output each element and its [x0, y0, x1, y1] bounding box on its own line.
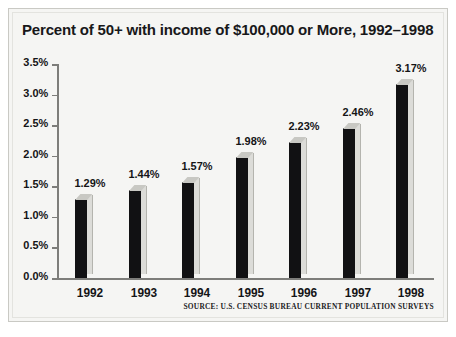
y-axis-tick-label: 0.0%	[23, 270, 48, 282]
chart-page: Percent of 50+ with income of $100,000 o…	[0, 0, 456, 337]
bar-side-face	[408, 80, 414, 274]
bar-value-label: 2.23%	[289, 120, 320, 132]
x-axis-category-label: 1994	[184, 286, 210, 300]
bar-front-face	[129, 190, 141, 278]
bar-front-face	[396, 84, 408, 278]
y-axis-tick-mark	[52, 217, 57, 219]
bar-value-label: 1.44%	[128, 168, 159, 180]
bar-front-face	[289, 142, 301, 278]
x-axis-category-label: 1993	[130, 286, 156, 300]
y-axis-tick-mark	[52, 64, 57, 66]
plot-area: 0.0%0.5%1.0%1.5%2.0%2.5%3.0%3.5% 1.29%1.…	[57, 64, 441, 278]
y-axis-tick-mark	[52, 95, 57, 97]
bar-side-face	[248, 153, 254, 274]
x-axis-category-label: 1995	[237, 286, 263, 300]
bar-side-face	[301, 138, 307, 274]
x-axis-category-label: 1998	[398, 286, 424, 300]
bar-3d[interactable]	[182, 182, 194, 278]
bar-3d[interactable]	[129, 190, 141, 278]
bar-side-face	[355, 124, 361, 274]
y-axis-tick-label: 2.0%	[23, 148, 48, 160]
y-axis-tick-label: 1.5%	[23, 178, 48, 190]
y-axis-tick-label: 1.0%	[23, 209, 48, 221]
bar-3d[interactable]	[236, 157, 248, 278]
x-axis-category-label: 1997	[344, 286, 370, 300]
y-axis-tick-mark	[52, 278, 57, 280]
y-axis-tick-label: 3.5%	[23, 56, 48, 68]
bar-value-label: 3.17%	[396, 62, 427, 74]
bar-3d[interactable]	[75, 199, 87, 278]
source-note: SOURCE: U.S. CENSUS BUREAU CURRENT POPUL…	[184, 302, 435, 311]
bar-value-label: 1.98%	[235, 135, 266, 147]
bar-3d[interactable]	[396, 84, 408, 278]
y-axis-tick-mark	[52, 186, 57, 188]
bar-3d[interactable]	[289, 142, 301, 278]
bar-front-face	[236, 157, 248, 278]
bar-side-face	[87, 195, 93, 274]
bar-value-label: 1.29%	[75, 177, 106, 189]
y-axis-tick-mark	[52, 125, 57, 127]
y-axis-tick-label: 0.5%	[23, 239, 48, 251]
bar-3d[interactable]	[343, 128, 355, 278]
x-axis-category-label: 1992	[77, 286, 103, 300]
y-axis-tick-mark	[52, 247, 57, 249]
y-axis-tick-mark	[52, 156, 57, 158]
bar-front-face	[75, 199, 87, 278]
bar-value-label: 1.57%	[182, 160, 213, 172]
x-axis-line	[56, 278, 434, 280]
y-axis-tick-label: 3.0%	[23, 87, 48, 99]
bar-front-face	[182, 182, 194, 278]
y-axis-tick-label: 2.5%	[23, 117, 48, 129]
y-axis-line	[57, 64, 59, 278]
x-axis-category-label: 1996	[291, 286, 317, 300]
bar-side-face	[194, 178, 200, 274]
bar-value-label: 2.46%	[342, 106, 373, 118]
bar-side-face	[141, 186, 147, 274]
chart-title: Percent of 50+ with income of $100,000 o…	[22, 21, 433, 39]
bar-front-face	[343, 128, 355, 278]
